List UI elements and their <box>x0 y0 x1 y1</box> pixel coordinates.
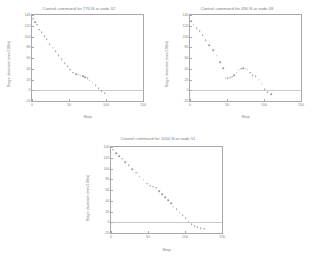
y-axis-tick-label: 0 <box>29 88 31 92</box>
data-point <box>247 69 249 71</box>
x-axis-tick-label: 150 <box>140 103 146 107</box>
data-point <box>197 226 199 228</box>
data-point <box>261 83 263 85</box>
data-point <box>167 199 169 201</box>
data-point <box>39 29 41 31</box>
data-point <box>121 158 123 160</box>
data-point <box>132 168 134 170</box>
y-axis-label: Stage deviation (mm/100m) <box>7 36 11 92</box>
figure-chart-2: Control command for 490 N at node 48 -20… <box>158 0 316 128</box>
data-point <box>234 74 236 76</box>
data-point <box>49 43 51 45</box>
data-point <box>158 190 160 192</box>
y-axis-tick-label: 80 <box>185 45 189 49</box>
data-point <box>236 72 238 74</box>
data-point <box>36 24 38 26</box>
x-axis-tick-label: 50 <box>146 235 150 239</box>
data-point <box>46 38 48 40</box>
data-point <box>55 50 57 52</box>
y-axis-tick-label: -20 <box>183 99 188 103</box>
data-point <box>143 179 145 181</box>
data-point <box>176 209 178 211</box>
data-point <box>33 18 35 20</box>
data-point <box>64 63 66 65</box>
y-axis-tick-label: -20 <box>25 99 30 103</box>
data-point <box>95 85 97 87</box>
data-point <box>139 176 141 178</box>
data-point <box>258 79 260 81</box>
data-point <box>112 149 114 151</box>
data-point <box>193 24 195 26</box>
data-point <box>155 187 157 189</box>
y-axis-tick-label: 120 <box>104 156 110 160</box>
data-point <box>191 21 193 23</box>
data-point <box>220 62 222 64</box>
y-axis-tick-label: 40 <box>106 199 110 203</box>
data-point <box>267 92 269 94</box>
data-point <box>52 47 54 49</box>
y-axis-tick-label: 120 <box>25 24 31 28</box>
data-point <box>135 172 137 174</box>
data-point <box>202 35 204 37</box>
y-axis-tick-label: 60 <box>27 56 31 60</box>
x-axis-tick-label: 100 <box>261 103 267 107</box>
plot-area-wrapper: -20020406080100120140050100150 Step Stag… <box>0 0 158 128</box>
y-axis-label: Stage deviation (mm/100m) <box>86 170 90 226</box>
data-point <box>231 76 233 78</box>
x-axis-tick-mark <box>222 231 223 233</box>
y-axis-tick-label: 0 <box>187 88 189 92</box>
x-axis-tick-label: 150 <box>219 235 225 239</box>
y-axis-tick-label: 40 <box>27 67 31 71</box>
data-point <box>128 164 130 166</box>
data-point <box>161 194 163 196</box>
data-point <box>115 153 117 155</box>
data-point <box>124 161 126 163</box>
y-axis-tick-label: 0 <box>108 220 110 224</box>
data-point <box>58 55 60 57</box>
y-axis-tick-label: 140 <box>25 13 31 17</box>
x-axis-tick-label: 150 <box>298 103 304 107</box>
x-axis-tick-mark <box>143 99 144 101</box>
data-point <box>67 65 69 67</box>
data-point <box>104 93 106 95</box>
y-axis-tick-label: 60 <box>106 188 110 192</box>
y-axis-tick-label: 60 <box>185 56 189 60</box>
data-point <box>146 183 148 185</box>
plot-axes: -20020406080100120140050100150 <box>31 14 144 102</box>
data-point <box>44 35 46 37</box>
data-point <box>87 78 89 80</box>
plot-area-wrapper: -20020406080100120140050100150 Step Stag… <box>79 130 237 262</box>
data-point <box>179 212 181 214</box>
data-point <box>92 82 94 84</box>
x-axis-label: Step <box>110 247 223 252</box>
x-axis-tick-label: 0 <box>31 103 33 107</box>
data-point <box>101 91 103 93</box>
plot-axes: -20020406080100120140050100150 <box>110 146 223 234</box>
data-point <box>41 31 43 33</box>
data-point-layer <box>190 15 301 101</box>
data-point <box>216 55 218 57</box>
data-point <box>182 214 184 216</box>
data-point <box>264 88 266 90</box>
y-axis-tick-label: 20 <box>27 78 31 82</box>
data-point <box>118 155 120 157</box>
x-axis-tick-label: 0 <box>189 103 191 107</box>
y-axis-tick-label: 40 <box>185 67 189 71</box>
data-point-layer <box>111 147 222 233</box>
y-axis-tick-label: 100 <box>183 35 189 39</box>
data-point <box>191 224 193 226</box>
y-axis-tick-label: 20 <box>106 210 110 214</box>
data-point <box>73 72 75 74</box>
y-axis-tick-label: 100 <box>25 35 31 39</box>
x-axis-tick-mark <box>301 99 302 101</box>
data-point <box>34 21 36 23</box>
data-point <box>271 93 273 95</box>
data-point-layer <box>32 15 143 101</box>
y-axis-tick-label: 20 <box>185 78 189 82</box>
data-point <box>170 203 172 205</box>
x-axis-label: Step <box>189 114 302 119</box>
y-axis-tick-label: -20 <box>104 231 109 235</box>
data-point <box>194 225 196 227</box>
x-axis-tick-label: 100 <box>103 103 109 107</box>
data-point <box>200 227 202 229</box>
